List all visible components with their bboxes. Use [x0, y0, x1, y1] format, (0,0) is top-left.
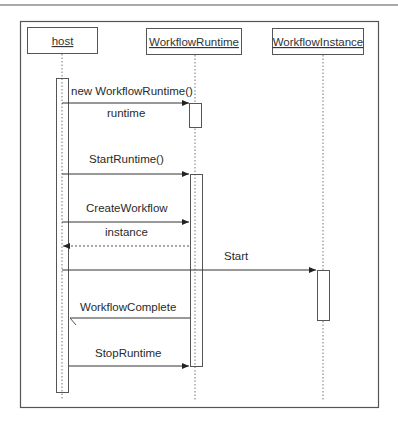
activation-runtime-1: [190, 104, 202, 128]
participant-label: WorkflowInstance: [273, 36, 364, 48]
sequence-diagram: host WorkflowRuntime WorkflowInstance ne…: [0, 0, 398, 428]
participant-workflow-instance: WorkflowInstance: [273, 29, 364, 55]
message-label: new WorkflowRuntime(): [71, 85, 193, 97]
activation-instance: [318, 271, 330, 321]
message-label: StartRuntime(): [89, 153, 164, 165]
arrow-tick: [70, 318, 76, 325]
diagram-frame: [21, 22, 379, 408]
participant-label: WorkflowRuntime: [149, 36, 239, 48]
message-label: instance: [105, 226, 148, 238]
message-label: Start: [224, 250, 249, 262]
participant-label: host: [52, 35, 75, 47]
participant-host: host: [28, 28, 98, 54]
participant-workflow-runtime: WorkflowRuntime: [147, 29, 242, 55]
message-label: CreateWorkflow: [86, 202, 168, 214]
message-label: StopRuntime: [95, 347, 161, 359]
message-label: runtime: [107, 107, 145, 119]
message-label: WorkflowComplete: [80, 301, 176, 313]
